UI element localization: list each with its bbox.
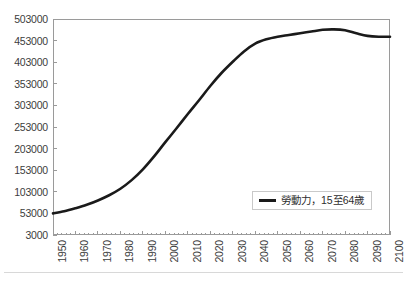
x-axis-tick-labels: 1950196019701980199020002010202020302040… [0,0,407,290]
chart-legend: 勞動力，15至64歲 [252,191,372,210]
x-axis-tick-label: 2020 [214,240,225,263]
legend-label-labour-force: 勞動力，15至64歲 [281,195,364,206]
x-axis-tick-label: 1990 [147,240,158,263]
page-divider-rule [4,272,403,273]
x-axis-tick-label: 2000 [169,240,180,263]
legend-line-swatch [259,199,276,202]
x-axis-tick-label: 2070 [327,240,338,263]
x-axis-tick-label: 1960 [79,240,90,263]
x-axis-tick-label: 1980 [124,240,135,263]
x-axis-tick-label: 1970 [102,240,113,263]
x-axis-tick-label: 2050 [282,240,293,263]
x-axis-tick-label: 2030 [237,240,248,263]
x-axis-tick-label: 2080 [349,240,360,263]
x-axis-tick-label: 1950 [57,240,68,263]
x-axis-tick-label: 2040 [259,240,270,263]
x-axis-tick-label: 2060 [304,240,315,263]
x-axis-tick-label: 2100 [394,240,405,263]
x-axis-tick-label: 2090 [372,240,383,263]
chart-container: 3000530001030001530002030002530003030003… [0,0,407,290]
x-axis-tick-label: 2010 [192,240,203,263]
